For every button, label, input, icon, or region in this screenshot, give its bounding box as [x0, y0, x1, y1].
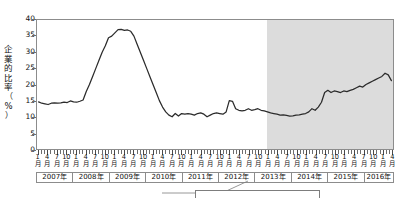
x-tick-label-2016-04: 4月	[384, 154, 400, 168]
plot-area	[36, 19, 394, 150]
series-line-企業的比率	[37, 20, 393, 149]
year-cell-2014年: 2014年	[292, 173, 328, 182]
year-cell-2015年: 2015年	[328, 173, 364, 182]
y-axis-title: 企 業的比率 （%）	[2, 16, 15, 150]
year-cell-2016年: 2016年	[365, 173, 393, 182]
year-cell-2007年: 2007年	[37, 173, 73, 182]
year-cell-2008年: 2008年	[73, 173, 109, 182]
annotation-callout	[195, 190, 320, 198]
year-cell-2009年: 2009年	[110, 173, 146, 182]
x-axis-month-labels: 1月4月7月10月1月4月7月10月1月4月7月10月1月4月7月10月1月4月…	[36, 154, 394, 173]
year-cell-2013年: 2013年	[255, 173, 291, 182]
chart-root: 企 業的比率 （%） 0510152025303540 1月4月7月10月1月4…	[0, 0, 402, 198]
